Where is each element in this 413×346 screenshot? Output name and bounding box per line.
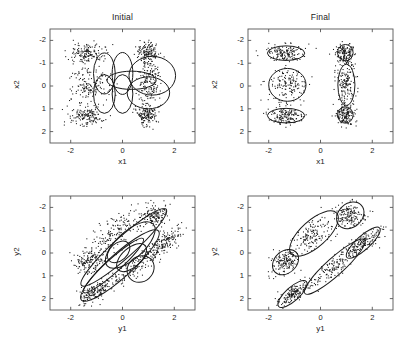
y-tick-label: -2 bbox=[216, 202, 244, 211]
scatter-points bbox=[268, 199, 387, 309]
plot-area-bottom-right bbox=[0, 0, 413, 346]
x-axis-label-bottom-right: y1 bbox=[248, 324, 393, 333]
y-tick-label: 1 bbox=[216, 271, 244, 280]
y-axis-label-bottom-right: y2 bbox=[210, 232, 219, 272]
y-tick-label: 0 bbox=[216, 248, 244, 257]
x-tick-label: -2 bbox=[255, 313, 283, 322]
y-tick-label: 2 bbox=[216, 294, 244, 303]
x-tick-label: 0 bbox=[307, 313, 335, 322]
figure-canvas: Initial-202210-1-2x1x2Final-202210-1-2x1… bbox=[0, 0, 413, 346]
plot-panel-bottom-right: -202210-1-2y1y2 bbox=[0, 0, 413, 346]
contour-ellipse bbox=[282, 203, 345, 264]
x-tick-label: 2 bbox=[358, 313, 386, 322]
y-tick-label: -1 bbox=[216, 225, 244, 234]
contour-ellipse bbox=[299, 233, 370, 300]
